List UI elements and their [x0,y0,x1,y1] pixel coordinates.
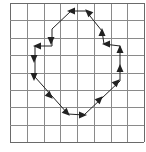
arrow-down-right-icon [45,91,56,102]
grid [10,3,145,143]
arrow-up-icon [117,45,124,53]
arrow-down-icon [31,73,38,81]
arrow-down-icon [31,55,38,63]
arrow-left-icon [33,43,41,50]
arrow-right-icon [79,112,87,119]
chain-code-diagram [0,0,146,152]
arrow-up-icon [117,64,124,72]
arrow-up-left-icon [83,7,94,18]
arrow-down-icon [48,37,55,45]
arrow-up-icon [99,28,106,36]
arrow-up-right-icon [112,77,123,88]
